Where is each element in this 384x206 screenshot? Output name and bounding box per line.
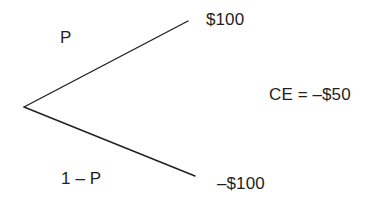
payoff-label-upside: $100	[206, 11, 244, 28]
probability-label-downside: 1 – P	[61, 170, 101, 187]
branch-line-downside	[24, 107, 195, 176]
lottery-tree-diagram: P 1 – P $100 –$100 CE = –$50	[0, 0, 384, 206]
probability-label-upside: P	[60, 29, 71, 46]
branch-line-upside	[24, 21, 188, 107]
certainty-equivalent-label: CE = –$50	[269, 86, 351, 103]
payoff-label-downside: –$100	[217, 175, 265, 192]
